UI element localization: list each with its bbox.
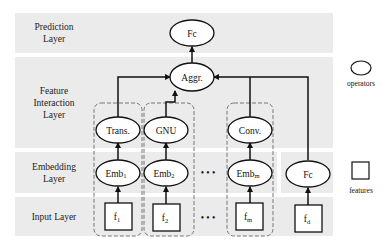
legend-operators: operators [347, 61, 375, 88]
node-f-m: fm [236, 203, 263, 230]
node-label: GNU [156, 126, 177, 136]
edge-trans-aggr [118, 77, 170, 117]
diagram-canvas: Fc Aggr. Trans. GNU Conv. Emb1 Emb2 Embm… [0, 0, 390, 248]
node-f-d: fd [295, 205, 322, 232]
feature-square-icon [352, 162, 369, 179]
node-label: Trans. [106, 126, 130, 136]
node-f-1: f1 [105, 203, 132, 230]
node-label: Aggr. [181, 73, 202, 83]
legend-label: features [349, 186, 373, 195]
node-conv: Conv. [228, 117, 272, 143]
node-label: Fc [303, 170, 313, 180]
operator-ellipse-icon [351, 61, 371, 75]
legend-features: features [349, 162, 373, 195]
node-label: Conv. [239, 126, 261, 136]
node-label: Fc [187, 29, 197, 39]
node-trans: Trans. [96, 117, 140, 143]
node-gnu: GNU [144, 117, 188, 143]
node-f-2: f2 [153, 204, 180, 231]
legend-label: operators [347, 79, 375, 88]
ellipsis-embedding: • • • [201, 168, 216, 178]
node-emb-m: Embm [228, 160, 272, 186]
node-emb-2: Emb2 [144, 160, 188, 186]
node-dense-fc: Fc [286, 161, 330, 187]
node-aggregator: Aggr. [170, 63, 214, 91]
node-prediction-fc: Fc [170, 20, 214, 46]
ellipsis-input: • • • [201, 213, 216, 223]
edge-gnu-aggr [166, 91, 175, 117]
node-emb-1: Emb1 [96, 160, 140, 186]
